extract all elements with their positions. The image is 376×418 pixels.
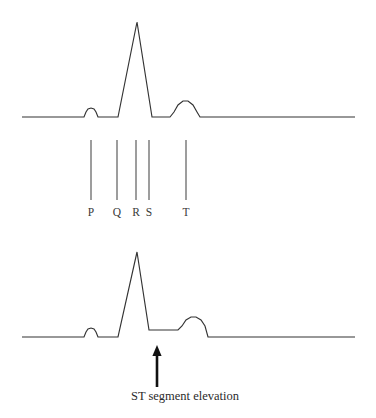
normal-ecg-group xyxy=(22,22,355,117)
wave-label-t: T xyxy=(182,206,189,218)
st-elevation-caption: ST segment elevation xyxy=(131,389,240,403)
st-elevation-annotation xyxy=(152,345,161,387)
normal-ecg-trace xyxy=(22,22,355,117)
wave-label-p: P xyxy=(88,206,94,218)
st-elevation-ecg-group xyxy=(22,252,355,337)
pqrst-wave-legend: P Q R S T xyxy=(88,140,190,218)
st-elevation-arrow-head xyxy=(152,345,161,356)
ecg-figure: ECG waveform comparison: normal rhythm a… xyxy=(0,0,376,418)
wave-label-s: S xyxy=(146,206,152,218)
st-elevation-ecg-trace xyxy=(22,252,355,337)
legend-tick-lines xyxy=(91,140,186,200)
wave-label-q: Q xyxy=(113,206,122,218)
ecg-diagram-canvas: ECG waveform comparison: normal rhythm a… xyxy=(0,0,376,418)
wave-label-r: R xyxy=(132,206,140,218)
legend-labels: P Q R S T xyxy=(88,206,190,218)
